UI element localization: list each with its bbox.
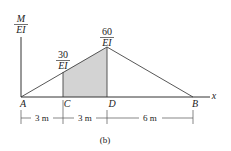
point-label-a: A [19, 98, 27, 109]
value-c-num: 30 [58, 49, 68, 60]
y-axis-label-num: M [16, 13, 26, 24]
diagram-line-db [107, 47, 193, 97]
point-label-d: D [107, 98, 116, 109]
y-axis-label-den: EI [15, 24, 26, 35]
shaded-area-cd [63, 47, 107, 97]
point-label-b: B [192, 98, 198, 109]
dim-label-ac: 3 m [35, 113, 49, 123]
moment-diagram: M EI x 60 EI 30 EI A C D B 3 m 3 m 6 m (… [0, 0, 231, 151]
dim-label-cd: 3 m [78, 113, 92, 123]
dim-label-db: 6 m [143, 113, 157, 123]
value-c-den: EI [57, 60, 68, 71]
x-axis-label: x [211, 90, 217, 101]
value-d-den: EI [101, 37, 112, 48]
figure-caption: (b) [100, 135, 111, 145]
point-label-c: C [64, 98, 71, 109]
value-d-num: 60 [102, 26, 112, 37]
